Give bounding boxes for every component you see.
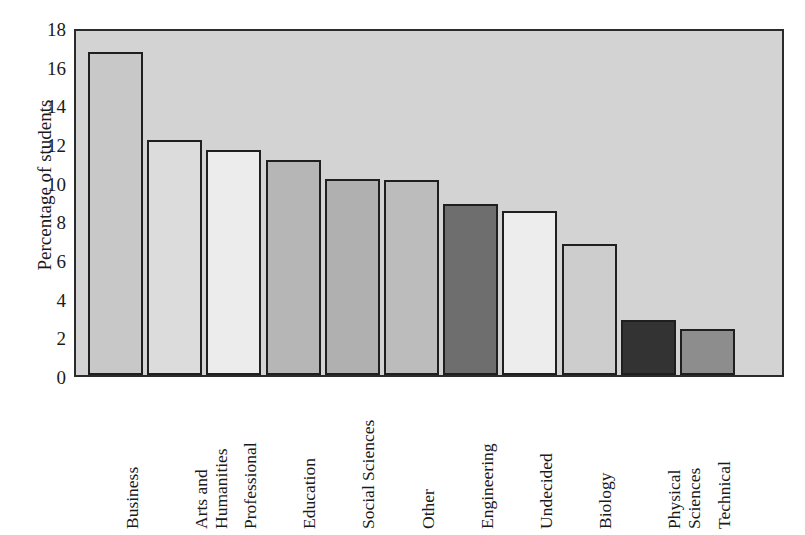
- x-axis-tick-label: Social Sciences: [358, 420, 378, 529]
- bar: [680, 329, 735, 375]
- x-axis-tick-label-line: Education: [299, 458, 319, 529]
- x-axis-tick-label: Other: [418, 489, 438, 529]
- bar: [384, 180, 439, 375]
- x-axis-tick-label-line: Engineering: [477, 443, 497, 529]
- bar: [325, 179, 380, 375]
- x-axis-tick-label-line: Humanities: [211, 448, 231, 529]
- x-axis-tick-labels: BusinessArts andHumanitiesProfessionalEd…: [74, 379, 784, 535]
- bar: [443, 204, 498, 375]
- bar: [147, 140, 202, 375]
- bars-layer: [76, 31, 782, 375]
- x-axis-tick-label: PhysicalSciences: [664, 468, 704, 529]
- y-axis-tick-labels: 024681012141618: [16, 0, 66, 535]
- y-axis-tick-label: 12: [26, 136, 66, 155]
- y-axis-tick-label: 0: [26, 368, 66, 387]
- y-axis-tick-label: 16: [26, 59, 66, 78]
- bar: [206, 150, 261, 375]
- x-axis-tick-label-line: Arts and: [191, 448, 211, 529]
- y-axis-tick-label: 4: [26, 291, 66, 310]
- x-axis-tick-label: Engineering: [477, 443, 497, 529]
- bar: [621, 320, 676, 375]
- x-axis-tick-label: Technical: [714, 461, 734, 529]
- y-axis-tick-label: 6: [26, 252, 66, 271]
- bar: [502, 211, 557, 375]
- x-axis-tick-label-line: Undecided: [536, 453, 556, 529]
- bar: [88, 52, 143, 375]
- x-axis-tick-label-line: Biology: [595, 473, 615, 529]
- x-axis-tick-label: Biology: [595, 473, 615, 529]
- plot-area: [74, 29, 784, 377]
- y-axis-tick-label: 18: [26, 20, 66, 39]
- x-axis-tick-label-line: Other: [418, 489, 438, 529]
- x-axis-tick-label: Professional: [240, 442, 260, 529]
- x-axis-tick-label-line: Social Sciences: [358, 420, 378, 529]
- x-axis-tick-label-line: Sciences: [684, 468, 704, 529]
- x-axis-tick-label-line: Business: [122, 467, 142, 529]
- x-axis-tick-label: Arts andHumanities: [191, 448, 231, 529]
- x-axis-tick-label-line: Professional: [240, 442, 260, 529]
- x-axis-tick-label-line: Technical: [714, 461, 734, 529]
- bar: [562, 244, 617, 375]
- x-axis-tick-label: Business: [122, 467, 142, 529]
- y-axis-tick-label: 10: [26, 175, 66, 194]
- x-axis-tick-label: Undecided: [536, 453, 556, 529]
- chart-page: Percentage of students 024681012141618 B…: [0, 0, 805, 535]
- y-axis-tick-label: 2: [26, 329, 66, 348]
- x-axis-tick-label: Education: [299, 458, 319, 529]
- y-axis-tick-label: 8: [26, 213, 66, 232]
- y-axis-tick-label: 14: [26, 97, 66, 116]
- bar: [266, 160, 321, 375]
- x-axis-tick-label-line: Physical: [664, 468, 684, 529]
